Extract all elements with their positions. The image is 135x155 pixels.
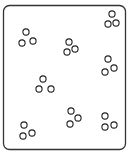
circle-icon — [105, 56, 111, 62]
circle-icon — [66, 39, 72, 45]
circle-icon — [102, 69, 108, 75]
circle-icon — [111, 65, 117, 71]
cluster-right-middle — [102, 56, 117, 75]
circle-icon — [21, 122, 27, 128]
circle-icon — [30, 38, 36, 44]
circle-icon — [20, 133, 26, 139]
cluster-top-left — [19, 29, 36, 46]
cluster-top-middle — [64, 39, 78, 55]
circle-icon — [64, 49, 70, 55]
circle-icon — [36, 86, 42, 92]
circle-icon — [102, 113, 108, 119]
circle-icon — [111, 122, 117, 128]
circle-icon — [102, 124, 108, 130]
circle-icon — [23, 29, 29, 35]
circle-icon — [19, 40, 25, 46]
cluster-bottom-middle — [67, 108, 81, 127]
cluster-bottom-left — [20, 122, 35, 139]
circle-icon — [67, 121, 73, 127]
cluster-center-left — [36, 76, 54, 92]
circle-icon — [68, 108, 74, 114]
circle-icon — [29, 130, 35, 136]
circle-icon — [48, 86, 54, 92]
circle-icon — [40, 76, 46, 82]
circle-clusters — [19, 11, 119, 139]
circle-icon — [109, 11, 115, 17]
cluster-diagram — [0, 0, 135, 155]
circle-icon — [105, 21, 111, 27]
cluster-bottom-right — [102, 113, 117, 130]
circle-icon — [75, 115, 81, 121]
circle-icon — [113, 20, 119, 26]
circle-icon — [72, 46, 78, 52]
cluster-top-right — [105, 11, 119, 27]
